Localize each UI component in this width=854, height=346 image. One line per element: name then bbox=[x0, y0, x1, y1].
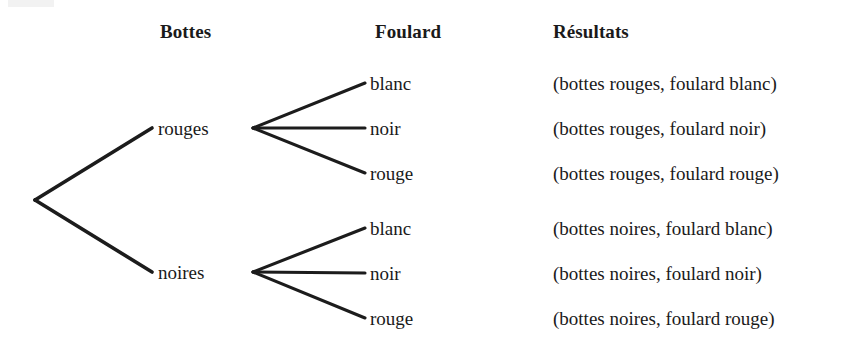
outcome-rouges-noir: (bottes rouges, foulard noir) bbox=[553, 119, 766, 138]
leaf-label-noires-blanc: blanc bbox=[370, 219, 411, 238]
branch-rouges-to-rouge bbox=[253, 128, 365, 173]
branch-noires-to-blanc bbox=[253, 228, 365, 272]
outcome-noires-rouge: (bottes noires, foulard rouge) bbox=[553, 309, 775, 328]
branch-root-to-rouges bbox=[35, 128, 152, 200]
leaf-label-rouges-noir: noir bbox=[370, 119, 401, 138]
branch-noires-to-noir bbox=[253, 272, 365, 273]
branch-noires-to-rouge bbox=[253, 272, 365, 318]
outcome-rouges-blanc: (bottes rouges, foulard blanc) bbox=[553, 74, 777, 93]
column-header-resultats: Résultats bbox=[553, 22, 629, 41]
tree-diagram: Bottes Foulard Résultats rouges noires b… bbox=[0, 0, 854, 346]
outcome-rouges-rouge: (bottes rouges, foulard rouge) bbox=[553, 164, 779, 183]
scan-artifact bbox=[8, 0, 54, 7]
leaf-label-noires-noir: noir bbox=[370, 264, 401, 283]
column-header-bottes: Bottes bbox=[160, 22, 211, 41]
branch-rouges-to-blanc bbox=[253, 83, 365, 128]
outcome-noires-noir: (bottes noires, foulard noir) bbox=[553, 264, 762, 283]
outcome-noires-blanc: (bottes noires, foulard blanc) bbox=[553, 219, 772, 238]
leaf-label-rouges-blanc: blanc bbox=[370, 74, 411, 93]
node-label-noires: noires bbox=[158, 263, 204, 282]
column-header-foulard: Foulard bbox=[375, 22, 441, 41]
leaf-label-rouges-rouge: rouge bbox=[370, 164, 413, 183]
branch-root-to-noires bbox=[35, 200, 152, 272]
leaf-label-noires-rouge: rouge bbox=[370, 309, 413, 328]
node-label-rouges: rouges bbox=[158, 119, 209, 138]
